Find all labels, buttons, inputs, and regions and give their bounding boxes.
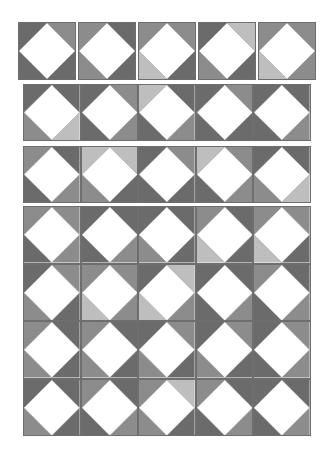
quilt-block bbox=[253, 84, 311, 141]
block-row-2 bbox=[23, 84, 311, 141]
quilt-block bbox=[23, 264, 81, 322]
quilt-block bbox=[196, 321, 254, 379]
quilt-block bbox=[23, 321, 81, 379]
quilt-block bbox=[253, 379, 311, 437]
quilt-block bbox=[81, 379, 139, 437]
quilt-block bbox=[196, 84, 254, 141]
quilt-block bbox=[138, 146, 196, 203]
quilt-block bbox=[253, 206, 311, 264]
quilt-block bbox=[138, 321, 196, 379]
block-row-3 bbox=[23, 146, 311, 203]
quilt-block bbox=[196, 146, 254, 203]
quilt-block bbox=[81, 146, 139, 203]
quilt-block bbox=[138, 84, 196, 141]
quilt-block bbox=[23, 206, 81, 264]
quilt-block bbox=[196, 379, 254, 437]
quilt-block bbox=[23, 146, 81, 203]
quilt-block bbox=[198, 22, 256, 80]
quilt-block bbox=[253, 264, 311, 322]
quilt-block bbox=[138, 206, 196, 264]
quilt-block bbox=[138, 379, 196, 437]
quilt-block bbox=[138, 264, 196, 322]
quilt-block bbox=[196, 264, 254, 322]
quilt-block bbox=[81, 84, 139, 141]
quilt-block bbox=[23, 84, 81, 141]
quilt-block bbox=[253, 146, 311, 203]
quilt-block bbox=[253, 321, 311, 379]
quilt-block bbox=[81, 206, 139, 264]
block-row-1 bbox=[18, 22, 316, 80]
quilt-block bbox=[78, 22, 136, 80]
block-grid bbox=[23, 206, 311, 436]
quilt-block bbox=[138, 22, 196, 80]
quilt-block bbox=[18, 22, 76, 80]
quilt-block bbox=[258, 22, 316, 80]
quilt-block bbox=[196, 206, 254, 264]
quilt-block bbox=[23, 379, 81, 437]
quilt-block bbox=[81, 264, 139, 322]
quilt-block bbox=[81, 321, 139, 379]
